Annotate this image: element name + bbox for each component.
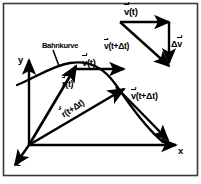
vector-symbol-v: v <box>124 7 129 17</box>
vector-symbol-v: v <box>177 40 182 49</box>
label-axis-x: x <box>178 146 183 156</box>
label-velocity-t-dt-curve: v(t+Δt) <box>131 92 158 101</box>
vector-symbol-v: v <box>82 58 87 68</box>
kinematics-diagram: v(t) Δv v(t+Δt) Bahnkurve v(t) r(t) v(t+… <box>0 0 201 184</box>
label-velocity-t-curve: v(t) <box>82 58 96 68</box>
label-arg-t: (t) <box>129 6 138 17</box>
label-axis-z: z <box>16 158 20 168</box>
label-velocity-t-dt-triangle: v(t+Δt) <box>104 42 129 51</box>
label-arg-t: (t) <box>87 57 96 68</box>
axis-group <box>15 60 176 165</box>
label-arg-t: (t) <box>65 79 73 89</box>
bahnkurve-leader-line <box>53 50 59 66</box>
label-axis-y: y <box>18 55 23 65</box>
label-arg-t-dt: (t+Δt) <box>108 41 129 51</box>
vector-symbol-v: v <box>131 92 136 101</box>
label-delta-velocity: Δv <box>171 40 182 49</box>
label-bahnkurve: Bahnkurve <box>42 42 78 50</box>
label-arg-t-dt: (t+Δt) <box>136 91 158 101</box>
diagram-canvas <box>0 0 201 184</box>
vector-symbol-r: r <box>62 80 65 89</box>
label-velocity-t-triangle: v(t) <box>124 7 138 17</box>
vector-symbol-v: v <box>104 42 108 51</box>
label-position-r-t: r(t) <box>62 80 73 89</box>
position-vector-r-t-dt <box>29 89 124 145</box>
